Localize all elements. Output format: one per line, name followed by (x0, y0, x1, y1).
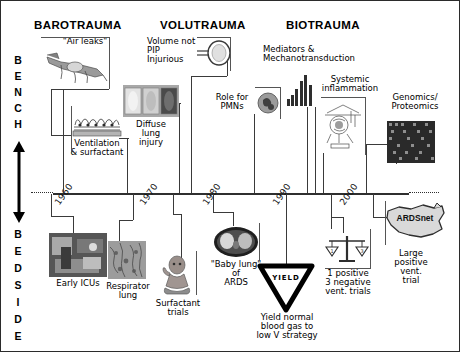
connector-early-icus-v (51, 194, 52, 216)
yield-sign: YIELD (257, 263, 315, 313)
bench-letter-e: E (10, 71, 26, 82)
frame-vent-surf (71, 106, 123, 154)
timeline-dotted-right (409, 192, 439, 193)
label-surfactant-trials: Surfactant trials (149, 299, 207, 317)
timeline-dotted-left (31, 192, 53, 193)
bedside-letter-e: E (10, 246, 26, 257)
bench-letter-b: B (10, 55, 26, 66)
connector-air-leaks-h (51, 89, 109, 90)
lung-histology-panels-image (123, 85, 179, 117)
bedside-letter-e2: E (10, 331, 26, 342)
label-systemic-inflammation: Systemic inflammation (311, 75, 389, 93)
connector-vent-surf-h (51, 135, 71, 136)
connector-air-leaks-v2 (51, 89, 52, 135)
column-header-biotrauma: BIOTRAUMA (286, 19, 360, 31)
frame-pmns (255, 87, 281, 119)
column-header-barotrauma: BAROTRAUMA (34, 19, 122, 31)
label-yield: Yield normal blood gas to low V strategy (247, 313, 327, 340)
bedside-letter-i: I (10, 297, 26, 308)
label-respirator-lung: Respirator lung (101, 282, 155, 300)
connector-yield-v (286, 194, 287, 266)
connector-early-icus-h (51, 216, 73, 217)
connector-early-icus-v2 (73, 216, 74, 233)
connector-volume-pip (191, 76, 192, 193)
frame-volume-pip (197, 37, 231, 71)
label-genomics-proteomics: Genomics/ Proteomics (379, 93, 451, 111)
bench-letter-h: H (10, 119, 26, 130)
bedside-letter-b: B (10, 229, 26, 240)
connector-surfactant-h (173, 214, 181, 215)
label-diffuse-lung-injury: Diffuse lung injury (125, 120, 177, 147)
frame-baby-lung (213, 223, 260, 261)
label-vent-trials: 1 positive 3 negative vent. trials (317, 269, 379, 296)
frame-vent-trials (325, 229, 371, 269)
figure-canvas: BAROTRAUMA VOLUTRAUMA BIOTRAUMA B E N C … (0, 0, 460, 352)
bedside-letter-d2: D (10, 314, 26, 325)
connector-genomics (366, 144, 367, 193)
bench-letter-n: N (10, 87, 26, 98)
connector-babylung-v (213, 194, 214, 212)
svg-text:YIELD: YIELD (271, 274, 300, 282)
microarray-grid-image (387, 121, 435, 163)
bedside-letter-s: S (10, 280, 26, 291)
label-ardsnet: Large positive vent. trial (383, 249, 439, 285)
bench-bedside-arrow (10, 141, 28, 223)
label-role-for-pmns: Role for PMNs (207, 93, 257, 111)
connector-pmns (254, 114, 255, 193)
connector-respirator-v2 (119, 220, 120, 243)
label-mediators: Mediators & Mechanotransduction (263, 45, 379, 63)
frame-surfactant (157, 251, 197, 295)
connector-vent-trials-h (331, 217, 343, 218)
frame-ardsnet (385, 201, 405, 245)
connector-ardsnet-v (373, 194, 374, 217)
connector-vent-trials-v (331, 194, 332, 229)
bedside-letter-d: D (10, 263, 26, 274)
connector-diffuse-lung (179, 103, 180, 193)
connector-volume-pip-h (191, 76, 227, 77)
frame-systemic (321, 97, 366, 155)
connector-respirator-h (119, 220, 133, 221)
connector-respirator-v (133, 194, 134, 220)
frame-air-leaks (41, 37, 110, 89)
connector-babylung-h (213, 212, 233, 213)
bench-letter-c: C (10, 103, 26, 114)
connector-surfactant-v (173, 194, 174, 214)
respirator-lung-histology-photo (108, 241, 146, 279)
column-header-volutrauma: VOLUTRAUMA (160, 19, 246, 31)
early-icu-ward-photo (49, 233, 107, 277)
